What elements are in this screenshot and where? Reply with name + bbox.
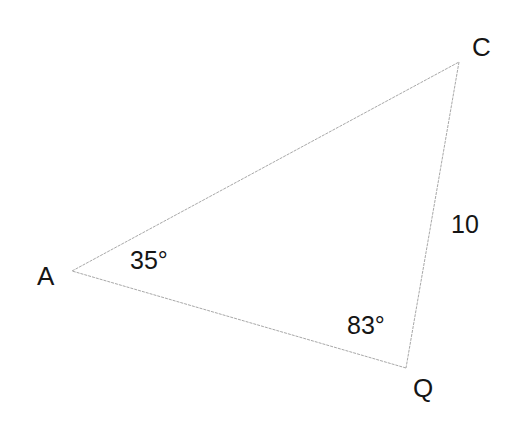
side-length-cq: 10 <box>451 210 479 238</box>
triangle-figure: C A Q 35° 83° 10 <box>0 0 514 434</box>
vertex-label-q: Q <box>413 373 433 403</box>
side-ac <box>72 62 459 271</box>
vertex-label-c: C <box>472 32 491 62</box>
angle-label-q: 83° <box>347 311 385 339</box>
vertex-label-a: A <box>37 261 55 291</box>
angle-label-a: 35° <box>130 246 168 274</box>
triangle-diagram: C A Q 35° 83° 10 <box>0 0 514 434</box>
